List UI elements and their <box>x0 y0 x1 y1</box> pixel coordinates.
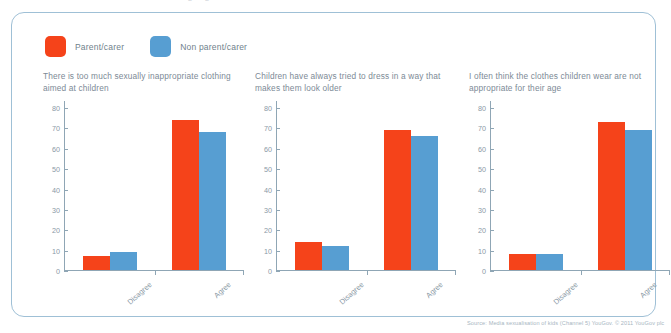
bar-group <box>277 101 367 270</box>
x-tick-label: Agree <box>638 280 659 300</box>
y-tick <box>64 271 68 272</box>
x-tick <box>155 271 156 275</box>
x-axis-end-tick <box>243 270 244 275</box>
clipped-header-left: on the ongoing sexualisation of children <box>150 0 308 1</box>
x-tick-label: Disagree <box>125 280 153 306</box>
y-tick-label: 30 <box>255 205 272 214</box>
bar-group <box>367 101 457 270</box>
y-tick-label: 70 <box>469 124 486 133</box>
chart-legend: Parent/carer Non parent/carer <box>45 36 247 57</box>
x-axis-end-tick <box>669 270 670 275</box>
y-tick-label: 50 <box>469 165 486 174</box>
chart-panel-3: I often think the clothes children wear … <box>469 70 671 315</box>
x-tick-label: Disagree <box>551 280 579 306</box>
x-tick-label: Agree <box>212 280 233 300</box>
y-tick-label: 0 <box>43 267 60 276</box>
bar-group <box>65 101 155 270</box>
chart-panel-1: There is too much sexually inappropriate… <box>43 70 248 315</box>
bar-non-parent-carer-agree[interactable] <box>199 132 226 271</box>
bar-parent-carer-agree[interactable] <box>172 120 199 271</box>
y-tick-label: 80 <box>255 104 272 113</box>
panel-title-2: Children have always tried to dress in a… <box>255 70 460 96</box>
legend-label-non-parent: Non parent/carer <box>180 42 247 52</box>
legend-item-parent[interactable]: Parent/carer <box>45 36 124 57</box>
bar-non-parent-carer-disagree[interactable] <box>110 252 137 270</box>
plot-area-2: 01020304050607080DisagreeAgree <box>255 101 460 286</box>
bar-parent-carer-disagree[interactable] <box>509 254 536 270</box>
y-tick <box>276 271 280 272</box>
x-tick <box>581 271 582 275</box>
bar-group <box>155 101 245 270</box>
bars-container <box>65 101 244 270</box>
bars-container <box>277 101 456 270</box>
y-tick-label: 70 <box>43 124 60 133</box>
bar-parent-carer-agree[interactable] <box>598 122 625 271</box>
legend-swatch-non-parent <box>150 36 171 57</box>
y-tick-label: 10 <box>255 246 272 255</box>
y-tick-label: 60 <box>43 144 60 153</box>
plot-area-1: 01020304050607080DisagreeAgree <box>43 101 248 286</box>
chart-card: Parent/carer Non parent/carer There is t… <box>11 12 656 317</box>
x-axis-end-tick <box>455 270 456 275</box>
bar-non-parent-carer-agree[interactable] <box>625 130 652 271</box>
y-tick-label: 80 <box>469 104 486 113</box>
x-tick <box>367 271 368 275</box>
y-tick-label: 20 <box>255 226 272 235</box>
y-tick-label: 40 <box>469 185 486 194</box>
bar-group <box>491 101 581 270</box>
y-tick-label: 60 <box>469 144 486 153</box>
legend-label-parent: Parent/carer <box>75 42 124 52</box>
y-tick-label: 0 <box>255 267 272 276</box>
y-tick-label: 40 <box>255 185 272 194</box>
y-tick-label: 20 <box>469 226 486 235</box>
bar-non-parent-carer-agree[interactable] <box>411 136 438 270</box>
y-tick-label: 40 <box>43 185 60 194</box>
y-tick-label: 60 <box>255 144 272 153</box>
legend-swatch-parent <box>45 36 66 57</box>
panel-title-1: There is too much sexually inappropriate… <box>43 70 248 96</box>
y-tick-label: 0 <box>469 267 486 276</box>
chart-panel-2: Children have always tried to dress in a… <box>255 70 460 315</box>
bar-non-parent-carer-disagree[interactable] <box>322 246 349 270</box>
y-tick <box>490 271 494 272</box>
y-tick-label: 20 <box>43 226 60 235</box>
y-tick-label: 50 <box>255 165 272 174</box>
source-note: Source: Media sexualisation of kids (Cha… <box>467 320 664 326</box>
y-tick-label: 50 <box>43 165 60 174</box>
plot-area-3: 01020304050607080DisagreeAgree <box>469 101 671 286</box>
legend-item-non-parent[interactable]: Non parent/carer <box>150 36 247 57</box>
bar-group <box>581 101 671 270</box>
x-tick-label: Disagree <box>337 280 365 306</box>
y-tick-label: 70 <box>255 124 272 133</box>
y-tick-label: 10 <box>43 246 60 255</box>
clipped-header-text: on the ongoing sexualisation of children… <box>0 0 671 9</box>
y-tick-label: 30 <box>43 205 60 214</box>
bar-non-parent-carer-disagree[interactable] <box>536 254 563 270</box>
y-tick-label: 10 <box>469 246 486 255</box>
y-tick-label: 30 <box>469 205 486 214</box>
bar-parent-carer-agree[interactable] <box>384 130 411 271</box>
bar-parent-carer-disagree[interactable] <box>295 242 322 271</box>
clipped-header-right: YouGov / Channel 5 <box>520 0 600 1</box>
bars-container <box>491 101 670 270</box>
bar-parent-carer-disagree[interactable] <box>83 256 110 270</box>
panel-title-3: I often think the clothes children wear … <box>469 70 671 96</box>
y-tick-label: 80 <box>43 104 60 113</box>
x-tick-label: Agree <box>424 280 445 300</box>
